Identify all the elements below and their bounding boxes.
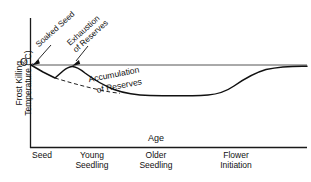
- x-category-young-seedling-line2: Seedling: [64, 160, 120, 170]
- x-category-seed: Seed: [20, 150, 64, 160]
- x-category-flower-initiation: Flower Initiation: [205, 150, 267, 170]
- x-category-older-seedling-line1: Older: [128, 150, 184, 160]
- x-axis-title: Age: [148, 134, 164, 144]
- x-category-older-seedling-line2: Seedling: [128, 160, 184, 170]
- x-category-flower-initiation-line1: Flower: [205, 150, 267, 160]
- frost-killing-temperature-chart: Frost Killing Temperature (°C) O Age See…: [0, 0, 311, 182]
- x-category-older-seedling: Older Seedling: [128, 150, 184, 170]
- y-axis-title: Frost Killing Temperature (°C): [15, 35, 33, 131]
- x-category-flower-initiation-line2: Initiation: [205, 160, 267, 170]
- y-axis-title-line2: Temperature (°C): [24, 35, 33, 131]
- x-category-young-seedling-line1: Young: [64, 150, 120, 160]
- x-category-seed-line1: Seed: [20, 150, 64, 160]
- frost-killing-temperature-curve: [31, 65, 307, 96]
- x-category-young-seedling: Young Seedling: [64, 150, 120, 170]
- y-axis-zero-tick-label: O: [20, 58, 28, 69]
